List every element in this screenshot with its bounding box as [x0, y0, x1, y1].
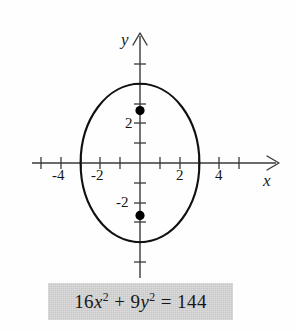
coordinate-plot — [0, 0, 297, 290]
equation-b-exp: 2 — [149, 290, 155, 303]
equation-b-coeff: 9 — [131, 291, 141, 312]
equation-rhs: 144 — [177, 291, 207, 312]
equation-equals-operator: = — [161, 291, 172, 312]
equation-a-exp: 2 — [103, 290, 109, 303]
equation-a-coeff: 16 — [74, 291, 94, 312]
equation-plus-operator: + — [114, 291, 125, 312]
equation-text: 16x2 + 9y2 = 144 — [74, 291, 207, 313]
x-tick-label-2: 2 — [176, 168, 184, 183]
x-axis-label: x — [263, 172, 271, 189]
equation-a-var: x — [94, 291, 103, 312]
y-axis-label: y — [121, 31, 129, 48]
y-tick-label-2: 2 — [125, 116, 133, 131]
x-tick-label-minus-2: -2 — [91, 168, 104, 183]
x-tick-label-4: 4 — [215, 168, 223, 183]
ellipse-figure: y x -4 -2 2 4 2 -2 16x2 + 9y2 = 144 — [0, 0, 297, 332]
focus-point-lower — [135, 211, 144, 220]
equation-caption-box: 16x2 + 9y2 = 144 — [48, 283, 233, 320]
y-tick-label-minus-2: -2 — [116, 195, 129, 210]
focus-point-upper — [135, 106, 144, 115]
figure-page: y x -4 -2 2 4 2 -2 16x2 + 9y2 = 144 — [0, 0, 297, 332]
x-tick-label-minus-4: -4 — [52, 168, 65, 183]
